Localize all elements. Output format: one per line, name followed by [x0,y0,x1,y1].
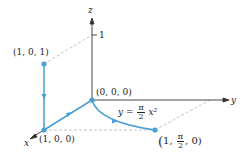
label-point-101: (1, 0, 1) [13,48,49,57]
curve-rhs: x² [149,107,158,117]
x-arrowhead [30,134,37,139]
z-axis-label: z [88,6,93,15]
label-point-000: (0, 0, 0) [96,88,132,97]
point-000 [89,97,94,102]
points [41,61,157,132]
y-axis-label: y [231,96,236,105]
direction-arrows [42,94,119,124]
label-point-1pi20: (1, π 2 , 0) [158,133,202,150]
z-tick-label: 1 [99,31,105,40]
label-point-100: (1, 0, 0) [39,135,75,144]
point-101 [41,61,46,66]
arrow-down [42,94,47,100]
x-axis-label: x [24,139,29,148]
guide-p101-to-z1 [44,35,92,64]
point-100 [41,127,46,132]
point-1pi20 [152,127,157,132]
curve-fraction: π 2 [137,104,144,121]
curve-equation-label: y = π 2 x² [118,104,157,121]
curve-lhs: y = [118,107,134,117]
guide-p1pi20-to-y [155,100,210,130]
y-arrowhead [223,98,229,102]
z-arrowhead [90,18,94,24]
diagram-canvas [0,0,240,165]
